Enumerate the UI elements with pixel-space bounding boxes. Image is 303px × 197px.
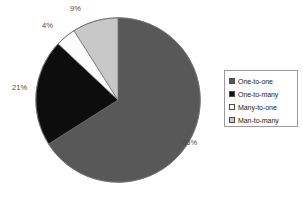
pie-label-one-to-one: 66%	[182, 139, 197, 147]
pie-svg	[35, 17, 201, 183]
chart-legend: One-to-one One-to-many Many-to-one Man-t…	[224, 70, 298, 127]
pie-label-man-to-many: 9%	[70, 5, 81, 13]
legend-swatch-man-to-many	[229, 117, 235, 123]
pie-plot-area	[35, 17, 201, 183]
legend-item-man-to-many[interactable]: Man-to-many	[229, 114, 297, 126]
legend-item-one-to-many[interactable]: One-to-many	[229, 88, 297, 100]
pie-label-one-to-many: 21%	[12, 84, 27, 92]
legend-label-one-to-one: One-to-one	[238, 78, 273, 85]
pie-label-many-to-one: 4%	[42, 22, 53, 30]
legend-swatch-many-to-one	[229, 104, 235, 110]
legend-item-many-to-one[interactable]: Many-to-one	[229, 101, 297, 113]
legend-label-one-to-many: One-to-many	[238, 91, 278, 98]
pie-chart-figure: 66% 21% 4% 9% One-to-one One-to-many Man…	[0, 0, 303, 197]
legend-label-many-to-one: Many-to-one	[238, 104, 277, 111]
legend-swatch-one-to-many	[229, 91, 235, 97]
pie-slices	[36, 18, 200, 182]
legend-label-man-to-many: Man-to-many	[238, 117, 279, 124]
legend-item-one-to-one[interactable]: One-to-one	[229, 75, 297, 87]
legend-swatch-one-to-one	[229, 78, 235, 84]
